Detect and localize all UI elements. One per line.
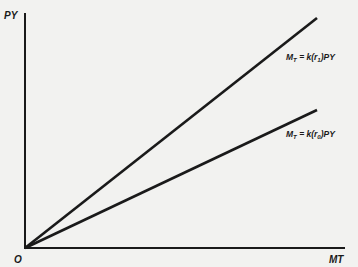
line-k-r0 [25, 110, 317, 248]
line-k-r1 [25, 18, 317, 248]
label-k-r0: MT = k(r0)PY [286, 129, 336, 140]
origin-label: O [14, 254, 22, 265]
money-demand-diagram: PY MT O MT = k(r1)PY MT = k(r0)PY [0, 0, 358, 267]
y-axis-label: PY [4, 10, 19, 21]
x-axis-label: MT [329, 254, 344, 265]
label-k-r1: MT = k(r1)PY [286, 52, 336, 63]
